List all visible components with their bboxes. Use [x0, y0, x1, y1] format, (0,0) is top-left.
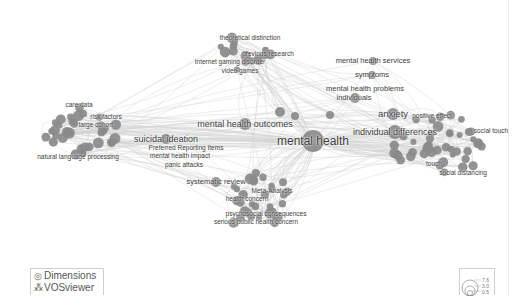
- network-node[interactable]: [230, 42, 237, 49]
- vosviewer-logo-icon: ⁂: [34, 282, 44, 294]
- network-node[interactable]: [410, 139, 416, 145]
- node-label[interactable]: systematic review: [186, 178, 245, 186]
- network-node[interactable]: [259, 173, 266, 180]
- network-node[interactable]: [252, 169, 260, 177]
- network-node[interactable]: [433, 146, 442, 155]
- network-node[interactable]: [458, 116, 465, 123]
- network-node[interactable]: [406, 152, 416, 162]
- network-node[interactable]: [52, 132, 59, 139]
- legend-circles-icon: [460, 269, 496, 296]
- node-label[interactable]: theoretical distinction: [220, 35, 281, 42]
- network-node[interactable]: [463, 147, 471, 155]
- node-label[interactable]: care data: [65, 102, 92, 109]
- network-node[interactable]: [446, 129, 454, 137]
- node-label[interactable]: psychosocial consequences: [226, 211, 307, 218]
- network-node[interactable]: [476, 140, 483, 147]
- branding-logo: ◎Dimensions ⁂VOSviewer: [30, 268, 104, 295]
- network-node[interactable]: [56, 114, 66, 124]
- node-label[interactable]: touch: [426, 161, 442, 168]
- network-node[interactable]: [80, 142, 89, 151]
- network-node[interactable]: [275, 107, 285, 117]
- network-node[interactable]: [326, 111, 334, 119]
- node-label[interactable]: video games: [222, 68, 259, 75]
- network-node[interactable]: [73, 110, 84, 121]
- node-label[interactable]: Preferred Reporting Items: [149, 145, 224, 152]
- network-node[interactable]: [93, 137, 104, 148]
- node-label[interactable]: mental health: [277, 135, 349, 147]
- node-label[interactable]: positive effect: [412, 113, 452, 120]
- panel-divider: [508, 0, 509, 295]
- node-label[interactable]: anxiety: [378, 109, 408, 119]
- node-label[interactable]: large cohort: [79, 122, 113, 129]
- node-label[interactable]: social touch: [474, 128, 508, 135]
- network-node[interactable]: [457, 132, 463, 138]
- node-label[interactable]: individuals: [336, 94, 371, 102]
- node-label[interactable]: risk factors: [90, 114, 121, 121]
- network-node[interactable]: [62, 127, 72, 137]
- network-node[interactable]: [108, 139, 115, 146]
- network-node[interactable]: [279, 178, 287, 186]
- node-label[interactable]: previous research: [242, 51, 294, 58]
- network-node[interactable]: [41, 133, 50, 142]
- node-label[interactable]: mental health outcomes: [197, 120, 293, 129]
- node-label[interactable]: mental health problems: [326, 85, 404, 93]
- network-node[interactable]: [396, 156, 405, 165]
- size-legend: 7.6 3.0 0.5: [459, 268, 495, 295]
- network-node[interactable]: [220, 47, 231, 58]
- dimensions-logo-icon: ◎: [34, 270, 44, 282]
- network-node[interactable]: [470, 136, 476, 142]
- network-node[interactable]: [462, 155, 470, 163]
- node-label[interactable]: individual differences: [353, 128, 437, 137]
- node-label[interactable]: social distancing: [439, 170, 487, 177]
- network-node[interactable]: [420, 149, 429, 158]
- node-label[interactable]: Meta-Analysis: [252, 188, 293, 195]
- legend-value-min: 0.5: [482, 289, 489, 295]
- network-node[interactable]: [279, 200, 286, 207]
- node-label[interactable]: health concern: [226, 196, 269, 203]
- network-node[interactable]: [452, 147, 460, 155]
- node-label[interactable]: mental health services: [336, 57, 411, 65]
- node-label[interactable]: suicidal ideation: [134, 135, 198, 144]
- node-label[interactable]: serious public health concern: [214, 219, 298, 226]
- node-label[interactable]: natural language processing: [37, 154, 119, 161]
- node-label[interactable]: panic attacks: [165, 162, 203, 169]
- node-label[interactable]: mental health impact: [150, 153, 210, 160]
- vosviewer-label: VOSviewer: [44, 282, 94, 294]
- dimensions-label: Dimensions: [44, 270, 96, 282]
- node-label[interactable]: Internet gaming disorder: [195, 59, 265, 66]
- node-label[interactable]: symptoms: [355, 71, 389, 79]
